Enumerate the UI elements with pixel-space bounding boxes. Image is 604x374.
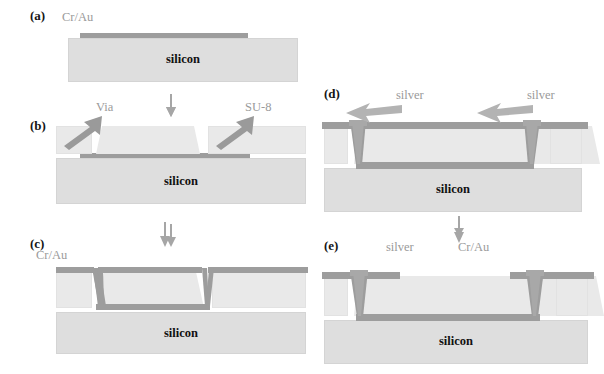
silicon-label: silicon [56,326,306,341]
annotation-cr-au-label: Cr/Au [36,248,67,263]
annotation-silver-right-arrow [477,102,533,124]
silicon-substrate: silicon [56,312,306,354]
arrow-etch-e [450,216,468,238]
panel-e-tag: (e) [324,238,338,254]
annotation-silver-right-label: silver [527,88,555,103]
silicon-label: silicon [324,182,582,197]
cr-au-conformal-layer [54,266,310,312]
silicon-substrate: silicon [68,38,298,82]
silicon-label: silicon [68,52,298,67]
metal-and-silver-layer [322,270,594,324]
silicon-substrate: silicon [324,168,582,212]
annotation-silver-left-arrow [346,102,402,124]
annotation-via-label: Via [96,100,113,115]
silicon-label: silicon [324,334,588,349]
annotation-cr-au-label: Cr/Au [458,240,489,255]
panel-c: (c) Cr/Au silicon [0,236,310,361]
panel-b-tag: (b) [30,118,46,134]
silicon-substrate: silicon [324,320,588,364]
annotation-silver-label: silver [386,240,414,255]
panel-d-tag: (d) [324,86,340,102]
metal-and-silver-layer [322,120,588,172]
silicon-substrate: silicon [56,158,306,204]
annotation-su8-arrow [214,114,256,150]
annotation-via-arrow [62,114,104,150]
panel-d: (d) silver silver silicon [300,84,601,214]
arrow-deposition-b [162,94,180,118]
panel-b: (b) silicon Via SU-8 [0,100,310,210]
annotation-su8-label: SU-8 [245,100,271,115]
silicon-label: silicon [56,174,306,189]
annotation-cr-au-label: Cr/Au [62,10,93,25]
su8-block-center [96,126,200,155]
cr-au-layer [80,33,248,38]
arrow-deposition-c [162,224,180,248]
panel-a: (a) Cr/Au silicon [0,0,300,88]
annotation-silver-left-label: silver [396,88,424,103]
panel-a-tag: (a) [30,8,45,24]
panel-e: (e) silver Cr/Au silicon [300,232,601,368]
